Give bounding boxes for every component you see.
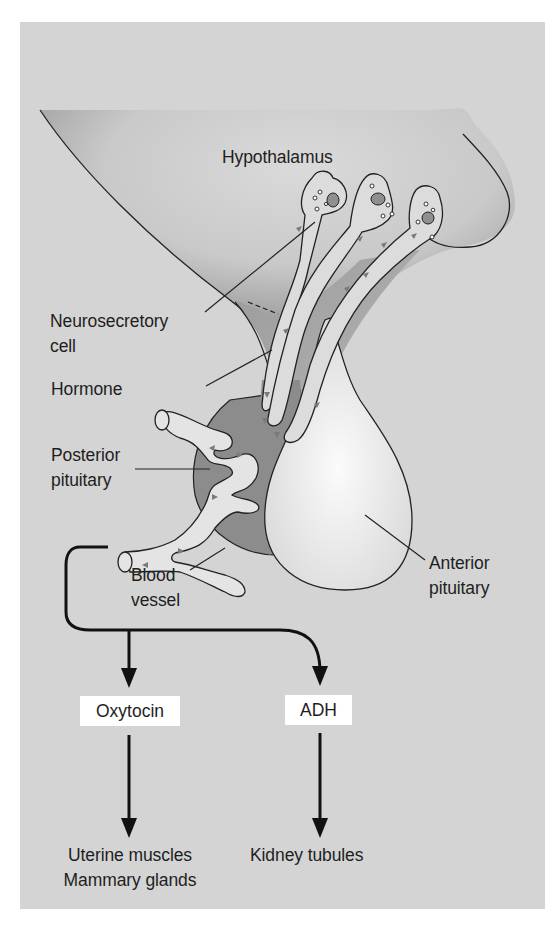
target-oxytocin: Uterine muscles Mammary glands: [50, 843, 210, 893]
label-anterior-pituitary: Anterior pituitary: [429, 551, 489, 601]
label-hormone: Hormone: [51, 377, 122, 402]
label-blood-vessel: Blood vessel: [131, 563, 180, 613]
label-neurosecretory-cell: Neurosecretory cell: [50, 309, 168, 359]
label-posterior-pituitary: Posterior pituitary: [51, 443, 120, 493]
target-adh: Kidney tubules: [250, 843, 363, 868]
hormone-box-oxytocin: Oxytocin: [80, 696, 180, 726]
label-hypothalamus: Hypothalamus: [222, 145, 333, 170]
pituitary-hormone-diagram: Hypothalamus Neurosecretory cell Hormone…: [0, 0, 555, 926]
hormone-box-adh: ADH: [285, 695, 352, 725]
